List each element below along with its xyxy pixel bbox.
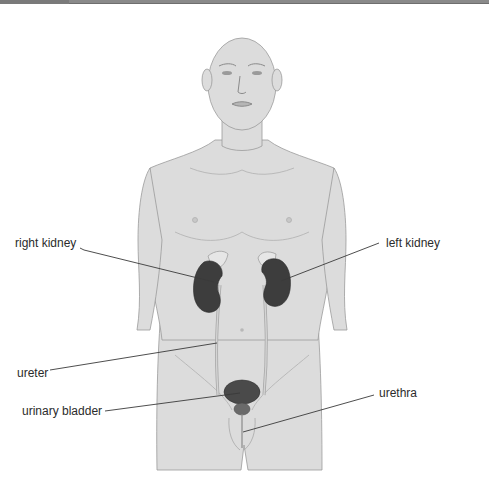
label-ureter: ureter [17,366,48,380]
label-right-kidney: right kidney [15,236,76,250]
label-urethra: urethra [379,386,417,400]
urinary-bladder [224,380,260,404]
label-left-kidney: left kidney [386,236,440,250]
label-urinary-bladder: urinary bladder [22,404,102,418]
prostate [234,403,250,415]
